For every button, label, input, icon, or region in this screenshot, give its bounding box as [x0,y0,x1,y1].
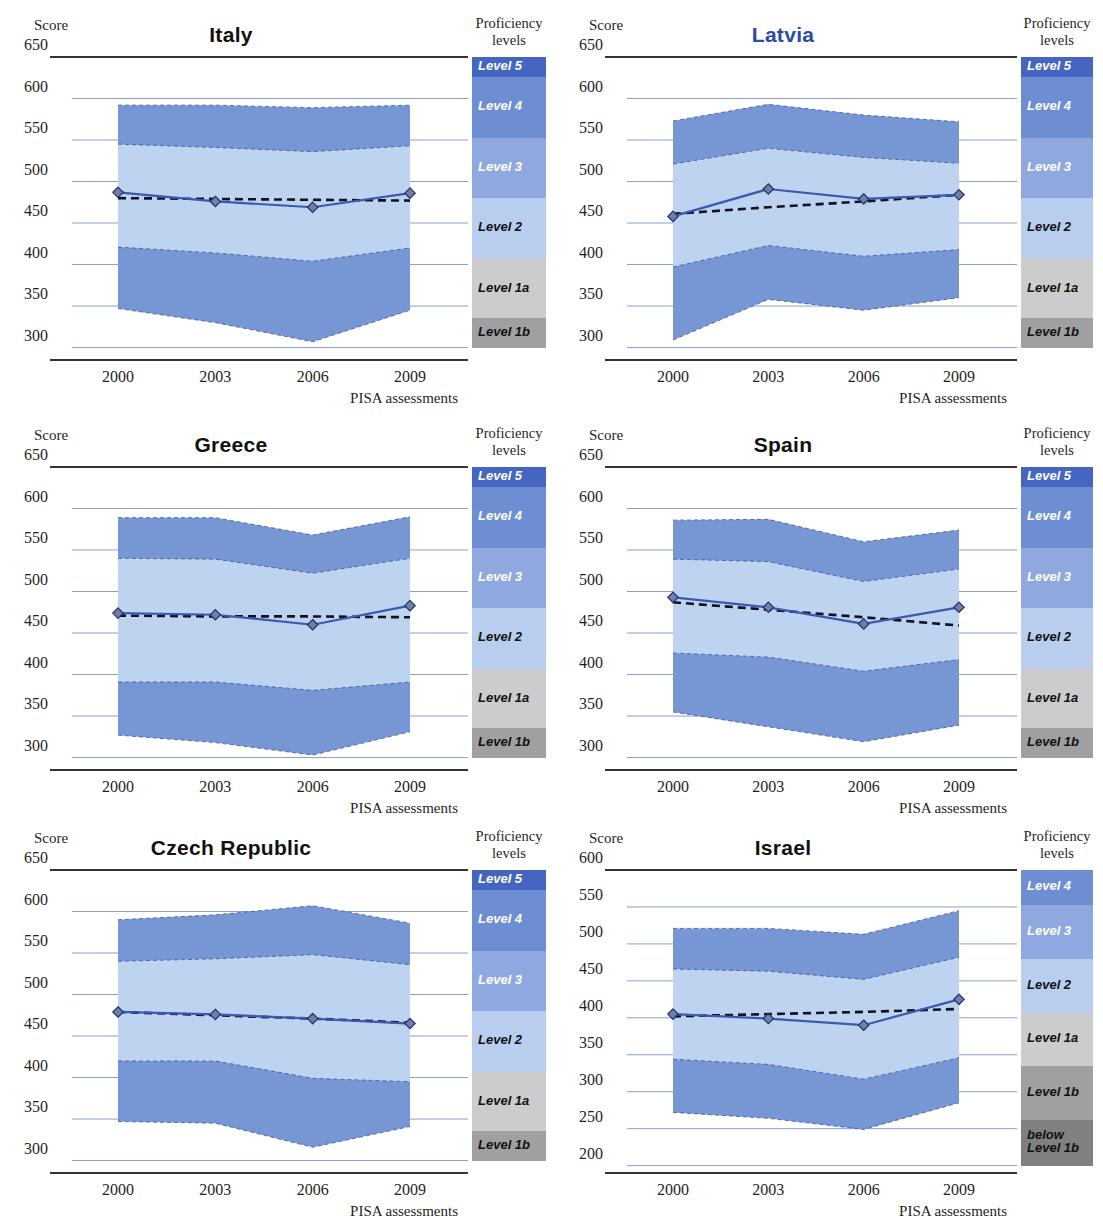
panel-latvia: ScoreLatviaProficiencylevels300350400450… [555,0,1103,410]
x-tick-2006: 2006 [824,1181,904,1199]
legend-label-level-1b: Level 1b [478,1138,530,1151]
legend-label-level-5: Level 5 [478,469,522,482]
y-tick-550: 550 [579,886,623,904]
legend-label-level-4: Level 4 [1027,879,1071,892]
y-tick-300: 300 [579,1071,623,1089]
legend-label-level-4: Level 4 [478,912,522,925]
legend-label-level-5: Level 5 [1027,469,1071,482]
legend-label-level-1b: Level 1b [1027,1085,1079,1098]
x-tick-2009: 2009 [370,778,450,796]
y-tick-500: 500 [579,161,623,179]
y-tick-650: 650 [24,36,68,54]
legend-label-level-2: Level 2 [1027,978,1071,991]
y-tick-500: 500 [579,571,623,589]
proficiency-legend-bar: Level 4Level 3Level 2Level 1aLevel 1bbel… [1021,870,1093,1173]
panel-spain: ScoreSpainProficiencylevels3003504004505… [555,410,1103,815]
legend-label-level-4: Level 4 [478,509,522,522]
y-tick-600: 600 [24,891,68,909]
x-tick-2006: 2006 [273,778,353,796]
legend-label-level-4: Level 4 [478,99,522,112]
x-axis-title: PISA assessments [817,1203,1007,1218]
y-tick-350: 350 [579,1034,623,1052]
x-tick-2006: 2006 [273,368,353,386]
y-tick-500: 500 [24,161,68,179]
y-tick-350: 350 [579,695,623,713]
y-tick-550: 550 [24,119,68,137]
legend-label-level-1a: Level 1a [478,691,529,704]
legend-label-level-3: Level 3 [478,973,522,986]
legend-label-level-1a: Level 1a [478,1094,529,1107]
legend-label-level-2: Level 2 [478,1033,522,1046]
legend-label-level-5: Level 5 [1027,59,1071,72]
y-tick-500: 500 [579,923,623,941]
y-tick-500: 500 [24,974,68,992]
x-tick-2003: 2003 [175,1181,255,1199]
y-tick-550: 550 [579,529,623,547]
y-tick-600: 600 [24,488,68,506]
panel-israel: ScoreIsraelProficiencylevels200250300350… [555,815,1103,1218]
y-tick-650: 650 [579,446,623,464]
panel-czech-republic: ScoreCzech RepublicProficiencylevels3003… [0,815,555,1218]
y-tick-300: 300 [24,327,68,345]
y-tick-350: 350 [24,1098,68,1116]
legend-label-level-4: Level 4 [1027,509,1071,522]
panel-italy: ScoreItalyProficiencylevels3003504004505… [0,0,555,410]
x-tick-2006: 2006 [824,778,904,796]
y-tick-300: 300 [24,1140,68,1158]
proficiency-legend-bar: Level 5Level 4Level 3Level 2Level 1aLeve… [472,870,546,1173]
y-tick-450: 450 [24,202,68,220]
band-25th-75th-percentile [118,558,410,690]
y-tick-400: 400 [24,1057,68,1075]
proficiency-legend-bar: Level 5Level 4Level 3Level 2Level 1aLeve… [1021,467,1093,770]
proficiency-legend-bar: Level 5Level 4Level 3Level 2Level 1aLeve… [472,467,546,770]
band-25th-75th-percentile [673,148,959,267]
x-tick-2009: 2009 [919,1181,999,1199]
y-tick-400: 400 [24,244,68,262]
y-tick-650: 650 [24,446,68,464]
legend-label-level-1b: Level 1b [1027,325,1079,338]
y-tick-400: 400 [579,654,623,672]
legend-label-level-3: Level 3 [1027,160,1071,173]
proficiency-legend-bar: Level 5Level 4Level 3Level 2Level 1aLeve… [1021,57,1093,360]
y-tick-450: 450 [579,960,623,978]
y-tick-250: 250 [579,1108,623,1126]
legend-label-line: below [1027,1128,1079,1141]
y-tick-550: 550 [24,529,68,547]
x-tick-2003: 2003 [175,368,255,386]
x-tick-2003: 2003 [175,778,255,796]
legend-label-level-1b: Level 1b [478,325,530,338]
y-tick-450: 450 [579,202,623,220]
x-tick-2003: 2003 [728,368,808,386]
x-tick-2009: 2009 [370,368,450,386]
x-axis-title: PISA assessments [268,390,458,407]
y-tick-600: 600 [579,78,623,96]
x-tick-2000: 2000 [633,778,713,796]
band-25th-75th-percentile [118,144,410,261]
legend-label-level-1a: Level 1a [1027,691,1078,704]
y-tick-600: 600 [24,78,68,96]
y-tick-350: 350 [579,285,623,303]
legend-label-level-1a: Level 1a [1027,1031,1078,1044]
y-tick-400: 400 [579,244,623,262]
legend-label-level-4: Level 4 [1027,99,1071,112]
y-tick-450: 450 [579,612,623,630]
y-tick-650: 650 [24,849,68,867]
y-tick-300: 300 [579,327,623,345]
y-tick-550: 550 [579,119,623,137]
x-tick-2000: 2000 [633,1181,713,1199]
y-tick-300: 300 [579,737,623,755]
x-tick-2000: 2000 [78,1181,158,1199]
x-tick-2006: 2006 [273,1181,353,1199]
x-axis-title: PISA assessments [817,390,1007,407]
legend-label-level-1a: Level 1a [1027,281,1078,294]
legend-label-level-5: Level 5 [478,872,522,885]
legend-label-below-level-1b: belowLevel 1b [1027,1128,1079,1155]
x-tick-2006: 2006 [824,368,904,386]
y-tick-450: 450 [24,1015,68,1033]
legend-label-level-5: Level 5 [478,59,522,72]
legend-label-level-2: Level 2 [1027,220,1071,233]
y-tick-600: 600 [579,488,623,506]
legend-label-level-1b: Level 1b [1027,735,1079,748]
legend-label-level-3: Level 3 [1027,570,1071,583]
legend-label-line: Level 1b [1027,1141,1079,1154]
